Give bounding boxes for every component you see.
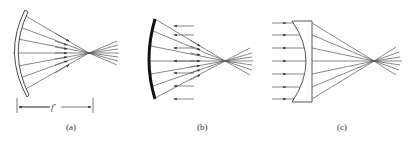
panel-b-mirror [149, 19, 155, 99]
panel-b-incoming-arrows [174, 26, 194, 99]
optics-figure: f′ (a) [0, 0, 418, 143]
panel-c: (c) [272, 21, 402, 132]
panel-a-label: (a) [66, 122, 76, 132]
panel-a-ray-arrows [55, 33, 69, 73]
panel-c-converging-rays [312, 23, 374, 99]
panel-b-label: (b) [197, 122, 208, 132]
panel-b: (b) [149, 19, 253, 132]
focal-length-label: f′ [51, 102, 57, 112]
panel-c-lens [292, 21, 312, 102]
panel-a-mirror [14, 10, 29, 97]
panel-a-diverging-rays [89, 41, 119, 65]
panel-b-reflected-arrows [190, 40, 200, 80]
panel-c-label: (c) [337, 122, 347, 132]
panel-a: f′ (a) [13, 10, 119, 132]
panel-c-diverging-rays [374, 47, 402, 75]
panel-a-converging-rays [13, 15, 89, 90]
panel-a-focal-length-dimension: f′ [17, 98, 93, 113]
panel-b-diverging-rays [225, 48, 253, 75]
